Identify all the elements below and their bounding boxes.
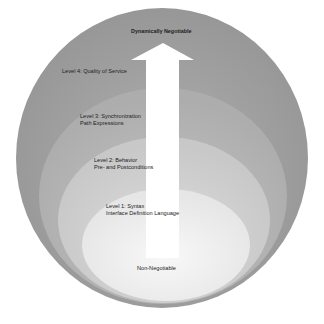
contract-levels-diagram [0,0,324,324]
level-1-title: Level 1: Syntax [106,203,179,210]
non-negotiable-text: Non-Negotiable [137,265,176,272]
level-3-label: Level 3: Synchronization Path Expression… [80,113,141,127]
level-4-label: Level 4: Quality of Service [62,68,127,75]
level-4-title: Level 4: Quality of Service [62,68,127,75]
arrow-top-label: Dynamically Negotiable [131,28,192,35]
level-3-title: Level 3: Synchronization [80,113,141,120]
level-3-subtitle: Path Expressions [80,120,141,127]
dynamically-negotiable-text: Dynamically Negotiable [131,28,192,35]
arrow-bottom-label: Non-Negotiable [137,265,176,272]
level-2-subtitle: Pre- and Postconditions [94,164,153,171]
level-1-subtitle: Interface Definition Language [106,210,179,217]
level-2-title: Level 2: Behavior [94,157,153,164]
level-1-label: Level 1: Syntax Interface Definition Lan… [106,203,179,217]
level-2-label: Level 2: Behavior Pre- and Postcondition… [94,157,153,171]
